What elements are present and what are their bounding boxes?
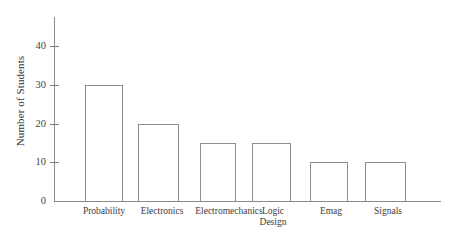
bar <box>138 124 179 201</box>
y-tick-label: 0 <box>18 196 46 206</box>
bar <box>365 162 406 201</box>
y-tick-label-text: 20 <box>18 119 46 130</box>
bar <box>85 85 123 201</box>
y-tick-mark <box>50 162 59 163</box>
y-tick-label-text: 40 <box>18 41 46 52</box>
y-tick-mark <box>50 46 59 47</box>
x-axis-line <box>54 201 441 202</box>
bar-chart: Number of Students 010203040 Probability… <box>0 0 457 245</box>
y-axis-line <box>54 17 55 202</box>
y-tick-label-text: 10 <box>18 157 46 168</box>
y-tick-label: 20 <box>18 119 46 129</box>
y-tick-label-text: 30 <box>18 80 46 91</box>
y-tick-label: 40 <box>18 41 46 51</box>
x-axis-label: Emag <box>311 206 351 217</box>
y-tick-mark <box>50 124 59 125</box>
bar <box>310 162 348 201</box>
bar <box>252 143 291 201</box>
y-tick-label: 10 <box>18 157 46 167</box>
y-tick-label-text: 0 <box>18 196 46 207</box>
y-axis-title: Number of Students <box>14 41 26 161</box>
x-axis-label: Logic Design <box>249 206 297 228</box>
x-axis-label: Probability <box>72 206 136 217</box>
x-axis-label: Signals <box>366 206 410 217</box>
y-tick-label: 30 <box>18 80 46 90</box>
x-axis-label: Electronics <box>133 206 191 217</box>
bar <box>200 143 236 201</box>
y-tick-mark <box>50 85 59 86</box>
